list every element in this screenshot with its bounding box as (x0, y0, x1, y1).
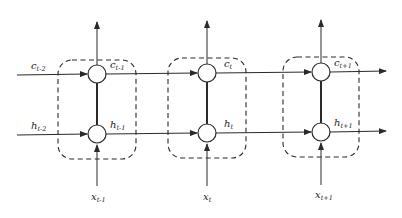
label-x-t-minus-1: xt-1 (91, 191, 106, 204)
label-x-t: xxt (203, 191, 212, 204)
cell-t-plus-1 (283, 20, 359, 185)
label-c-t-plus-1: ct+1 (334, 57, 352, 70)
label-h-t-plus-1: ht+1 (334, 117, 353, 130)
c-node-circle (198, 64, 216, 82)
rnn-unrolled-diagram: ct-2 ht-2 ct-1 ht-1 xt-1 ct ht xxt ct+1 … (0, 0, 402, 218)
h-node-circle (88, 125, 106, 143)
label-c-t-minus-2: ct-2 (31, 60, 46, 73)
cell-t (168, 21, 246, 186)
h-node-circle (312, 123, 330, 141)
c-arrow-into-cell-2 (106, 73, 197, 74)
labels: ct-2 ht-2 ct-1 ht-1 xt-1 ct ht xxt ct+1 … (31, 57, 353, 204)
label-c-t-minus-1: ct-1 (110, 59, 125, 72)
c-arrow-out (330, 71, 386, 72)
h-arrow-out (330, 131, 386, 132)
label-c-t: ct (224, 58, 233, 71)
label-x-t-plus-1: xt+1 (315, 189, 333, 202)
h-arrow-into-cell-3 (216, 132, 311, 133)
h-arrow-into-cell-2 (106, 133, 197, 134)
h-arrow-into-cell-1 (17, 134, 87, 135)
label-h-t-minus-2: ht-2 (31, 120, 46, 133)
c-node-circle (88, 65, 106, 83)
c-arrow-into-cell-3 (216, 72, 311, 73)
label-h-t: ht (224, 118, 233, 131)
label-h-t-minus-1: ht-1 (110, 119, 125, 132)
c-arrow-into-cell-1 (17, 74, 87, 75)
c-node-circle (312, 63, 330, 81)
h-node-circle (198, 124, 216, 142)
cell-t-minus-1 (58, 22, 136, 186)
